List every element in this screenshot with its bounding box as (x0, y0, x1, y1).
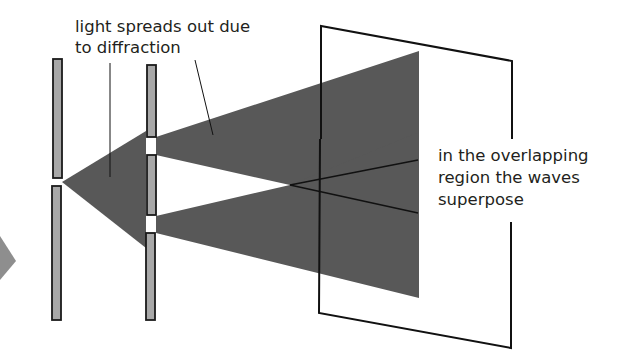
double-slit-barrier-top (147, 65, 156, 137)
incoming-light-arrow (0, 236, 16, 280)
superposition-label-line3: superpose (438, 190, 524, 209)
double-slit-barrier-bottom (146, 233, 155, 320)
superposition-label-line1: in the overlapping (438, 146, 589, 165)
double-slit-barrier-middle (147, 155, 156, 215)
diagram-canvas: light spreads out due to diffraction in … (0, 0, 635, 360)
single-slit-barrier-bottom (52, 186, 61, 320)
single-slit-barrier-top (53, 59, 62, 178)
diffraction-diagram: light spreads out due to diffraction in … (0, 0, 635, 360)
diffraction-label-line2: to diffraction (75, 38, 181, 57)
beam-single-slit (62, 131, 146, 248)
superposition-label-line2: region the waves (438, 168, 580, 187)
diffraction-label-line1: light spreads out due (75, 17, 250, 36)
